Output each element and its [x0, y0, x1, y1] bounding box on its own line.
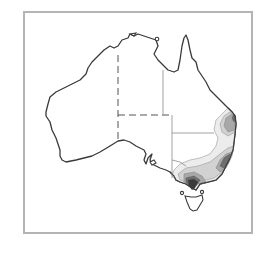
tasmania [185, 195, 203, 211]
groote-eylandt [155, 37, 159, 41]
australia-map [0, 0, 269, 261]
king-island [180, 191, 183, 194]
flinders-island [200, 190, 203, 193]
